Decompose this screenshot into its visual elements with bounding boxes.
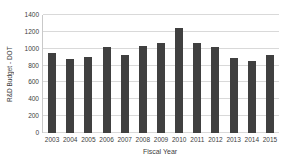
bar-2011 [193, 43, 201, 133]
y-tick-1000: 1000 [25, 45, 39, 52]
x-tick-2012: 2012 [208, 137, 222, 144]
bar-2012 [211, 47, 219, 133]
bar-2015 [266, 55, 274, 133]
x-tick-2006: 2006 [99, 137, 113, 144]
x-tick-2009: 2009 [154, 137, 168, 144]
bar-2005 [84, 57, 92, 133]
x-axis-title: Fiscal Year [42, 148, 278, 155]
gridline-1200 [43, 31, 279, 32]
x-tick-2008: 2008 [136, 137, 150, 144]
x-tick-2013: 2013 [226, 137, 240, 144]
y-axis-title: R&D Budget - DOT [4, 15, 14, 133]
bar-2003 [48, 53, 56, 133]
x-tick-2014: 2014 [245, 137, 259, 144]
gridline-1400 [43, 14, 279, 15]
y-tick-600: 600 [28, 79, 39, 86]
x-tick-2004: 2004 [63, 137, 77, 144]
bar-2009 [157, 43, 165, 133]
y-tick-400: 400 [28, 96, 39, 103]
x-tick-2003: 2003 [45, 137, 59, 144]
bar-2007 [121, 55, 129, 133]
bar-2013 [230, 58, 238, 133]
bar-2014 [248, 61, 256, 133]
y-tick-200: 200 [28, 113, 39, 120]
y-tick-1400: 1400 [25, 12, 39, 19]
y-tick-800: 800 [28, 62, 39, 69]
x-tick-2005: 2005 [81, 137, 95, 144]
bar-2006 [103, 47, 111, 133]
y-tick-0: 0 [35, 130, 39, 137]
x-tick-2015: 2015 [263, 137, 277, 144]
x-tick-2007: 2007 [117, 137, 131, 144]
bar-2004 [66, 59, 74, 133]
y-tick-1200: 1200 [25, 29, 39, 36]
bar-2008 [139, 46, 147, 133]
bar-chart-figure: R&D Budget - DOT 02004006008001000120014… [0, 0, 293, 164]
plot-area: 0200400600800100012001400200320042005200… [42, 15, 279, 133]
x-tick-2011: 2011 [190, 137, 204, 144]
x-tick-2010: 2010 [172, 137, 186, 144]
bar-2010 [175, 28, 183, 133]
